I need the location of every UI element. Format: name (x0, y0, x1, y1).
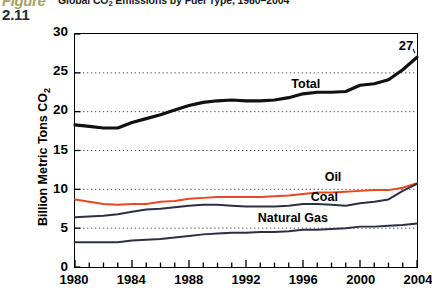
y-tick-label: 20 (36, 102, 68, 117)
x-tick-label: 1992 (232, 272, 261, 287)
x-tick-label: 2004 (404, 272, 432, 287)
x-tick-label: 1996 (289, 272, 318, 287)
x-tick-label: 1984 (117, 272, 146, 287)
chart-title-post: Emissions by Fuel Type, 1980–2004 (113, 0, 290, 6)
y-tick-label: 10 (36, 181, 68, 196)
x-tick-label: 1980 (60, 272, 89, 287)
figure-label-number: 2.11 (2, 7, 48, 22)
y-axis-tick-labels: 051015202530 (36, 33, 68, 268)
series-label-natural-gas: Natural Gas (258, 211, 328, 225)
value-annotation-27: 27 (399, 37, 413, 52)
x-tick-label: 1988 (174, 272, 203, 287)
chart-title: Global CO2 Emissions by Fuel Type, 1980–… (58, 0, 289, 6)
series-label-oil: Oil (325, 170, 342, 184)
plot-area: TotalOilCoalNatural Gas27 (74, 33, 418, 268)
x-axis-tick-labels: 1980198419881992199620002004 (74, 272, 418, 294)
y-tick-label: 15 (36, 142, 68, 157)
y-tick-label: 5 (36, 220, 68, 235)
y-tick-label: 30 (36, 24, 68, 39)
series-label-total: Total (291, 77, 320, 91)
chart-title-pre: Global CO (58, 0, 108, 6)
y-tick-label: 25 (36, 63, 68, 78)
figure-label: Figure 2.11 (2, 0, 48, 22)
x-tick-label: 2000 (346, 272, 375, 287)
series-label-coal: Coal (311, 190, 338, 204)
chart-title-subscript: 2 (108, 0, 112, 8)
annotation-layer: TotalOilCoalNatural Gas27 (75, 34, 417, 267)
